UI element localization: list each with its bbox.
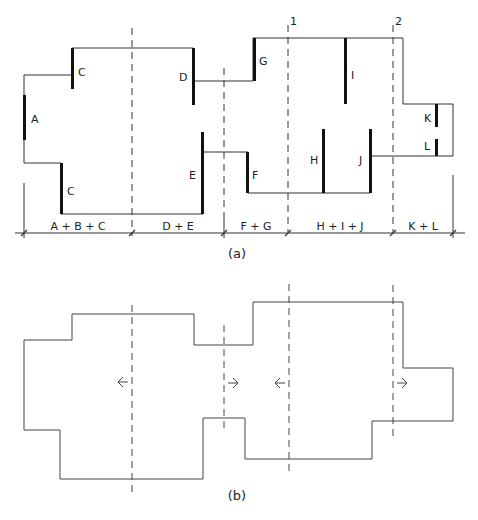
arrow-left-1 [118,377,128,387]
wall-c-top [71,48,74,89]
wall-c-bottom [60,163,63,214]
label-k: K [424,112,432,125]
dim-de: D + E [162,220,194,233]
caption-a: (a) [228,246,246,261]
walls [23,38,438,214]
label-i: I [351,69,354,82]
label-e: E [189,169,196,182]
label-h: H [310,154,318,167]
arrow-left-2 [275,378,285,388]
plan-b-outline [24,302,453,479]
figure-b [24,284,453,492]
wall-k [435,104,438,127]
dim-abc: A + B + C [50,220,105,233]
figure-a [15,25,465,238]
wall-d [192,48,195,105]
arrow-right-2 [397,378,407,388]
dim-fg: F + G [240,220,271,233]
label-l: L [424,140,431,153]
arrow-right-1 [228,378,238,388]
label-d: D [179,71,187,84]
wall-h [322,129,325,193]
plan-a-outline [24,38,453,214]
wall-i [344,38,347,104]
dim-kl: K + L [408,220,438,233]
label-a: A [31,113,39,126]
axis-label-1: 1 [290,15,297,28]
wall-e [201,132,204,214]
label-c-top: C [78,66,86,79]
wall-j [369,129,372,193]
axis-label-2: 2 [395,15,402,28]
label-f: F [252,169,258,182]
wall-a [23,95,26,140]
label-g: G [259,55,268,68]
label-j: J [358,154,362,167]
caption-b: (b) [228,488,246,503]
wall-g [253,38,256,81]
floor-plan-diagram: A C C D E F G H I J K L 1 2 A + B + C D … [0,0,478,520]
dim-hij: H + I + J [316,220,363,233]
wall-f [246,152,249,193]
label-c-bottom: C [67,185,75,198]
wall-l [435,139,438,156]
